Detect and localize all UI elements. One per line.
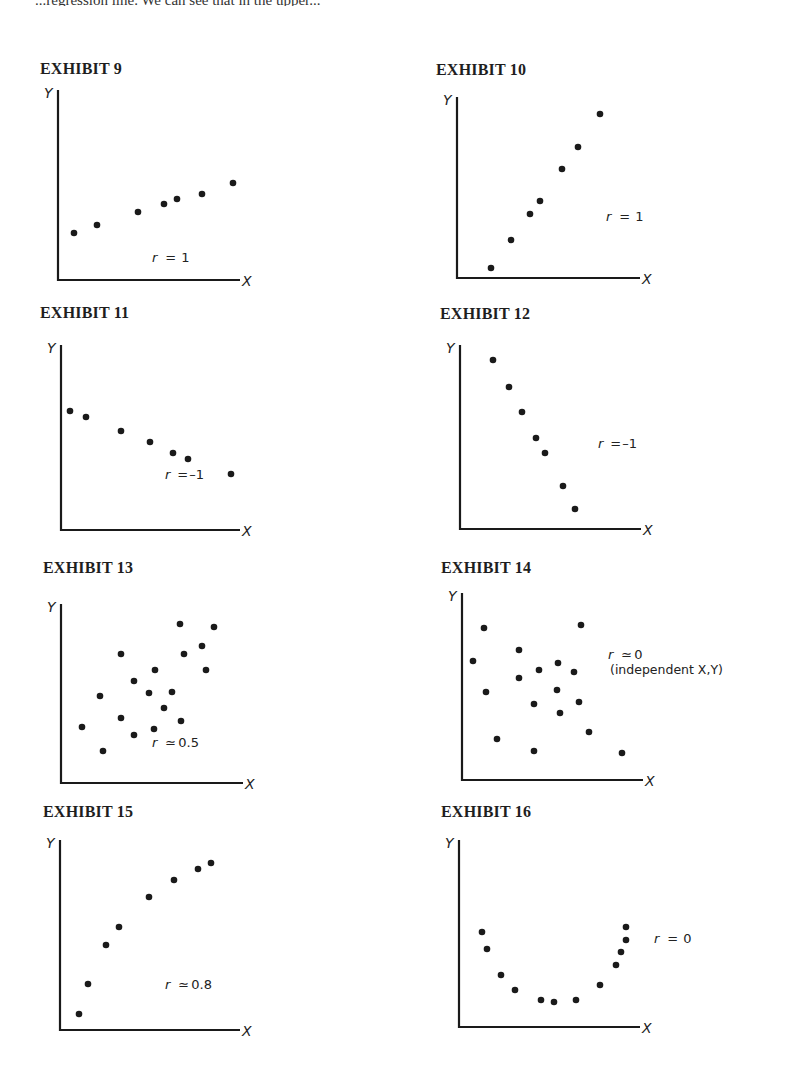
data-point [484, 946, 491, 953]
axis-lines [61, 345, 240, 530]
data-point [97, 693, 104, 700]
axis-lines [58, 90, 240, 280]
data-point [211, 624, 218, 631]
data-point [488, 265, 495, 272]
data-point [83, 414, 90, 421]
data-point [575, 144, 582, 151]
exhibit-16-r-label: r=0 [654, 931, 692, 946]
data-point [185, 456, 192, 463]
data-point [586, 729, 593, 736]
scatter-plots-canvas: YXYXYXYXYXYXYXYX r=1 r=1 r=–1 r=–1 r≃0.5… [0, 0, 799, 1071]
data-point [519, 409, 526, 416]
data-point [555, 660, 562, 667]
data-point [576, 699, 583, 706]
data-point [613, 962, 620, 969]
y-axis-label: Y [446, 340, 456, 356]
data-point [147, 439, 154, 446]
data-point [578, 622, 585, 629]
axis-lines [60, 840, 240, 1030]
data-point [506, 384, 513, 391]
data-point [208, 860, 215, 867]
y-axis-label: Y [445, 835, 455, 851]
data-point [470, 658, 477, 665]
exhibit-10-r-label: r=1 [606, 209, 644, 224]
data-point [481, 625, 488, 632]
y-axis-label: Y [443, 92, 453, 108]
data-point [171, 877, 178, 884]
data-point [199, 643, 206, 650]
data-point [230, 180, 237, 187]
data-point [146, 894, 153, 901]
axis-lines [457, 97, 640, 278]
axis-lines [462, 593, 643, 780]
data-point [118, 428, 125, 435]
data-point [490, 357, 497, 364]
data-point [623, 924, 630, 931]
data-point [483, 689, 490, 696]
data-point [152, 667, 159, 674]
data-point [597, 982, 604, 989]
exhibit-13-r-label: r≃0.5 [152, 735, 199, 750]
data-point [619, 750, 626, 757]
data-point [560, 483, 567, 490]
data-point [85, 981, 92, 988]
exhibit-11-r-label: r=–1 [165, 467, 204, 482]
data-point [559, 166, 566, 173]
data-point [536, 667, 543, 674]
y-axis-label: Y [47, 599, 57, 615]
data-point [94, 222, 101, 229]
data-point [161, 201, 168, 208]
exhibit-15-r-label: r≃0.8 [165, 977, 212, 992]
exhibit-16-plot: YX [445, 835, 652, 1036]
data-point [177, 621, 184, 628]
exhibit-9-r-label: r=1 [152, 250, 190, 265]
data-point [116, 924, 123, 931]
data-point [131, 732, 138, 739]
data-point [527, 211, 534, 218]
y-axis-label: Y [44, 85, 54, 101]
x-axis-label: X [241, 1023, 252, 1039]
data-point [512, 987, 519, 994]
data-point [542, 450, 549, 457]
x-axis-label: X [641, 271, 652, 287]
data-point [174, 196, 181, 203]
data-point [203, 667, 210, 674]
data-point [516, 675, 523, 682]
data-point [508, 237, 515, 244]
data-point [571, 669, 578, 676]
data-point [554, 687, 561, 694]
x-axis-label: X [641, 1020, 652, 1036]
axes-layer: YXYXYXYXYXYXYXYX [44, 85, 655, 1039]
data-point [531, 701, 538, 708]
data-point [498, 972, 505, 979]
data-point [533, 435, 540, 442]
data-point [551, 999, 558, 1006]
data-point [146, 690, 153, 697]
data-point [151, 726, 158, 733]
points-layer [67, 111, 630, 1018]
exhibit-14-sub-label: (independent X,Y) [610, 662, 723, 677]
exhibit-15-plot: YX [46, 835, 252, 1039]
data-point [181, 651, 188, 658]
y-axis-label: Y [448, 588, 458, 604]
data-point [195, 866, 202, 873]
data-point [228, 471, 235, 478]
x-axis-label: X [244, 776, 255, 792]
data-point [516, 647, 523, 654]
exhibit-9-plot: YX [44, 85, 252, 289]
data-point [538, 997, 545, 1004]
exhibit-10-plot: YX [443, 92, 652, 287]
data-point [76, 1011, 83, 1018]
exhibit-14-r-label: r≃0 [608, 647, 643, 662]
axis-lines [459, 840, 640, 1027]
x-axis-label: X [644, 773, 655, 789]
data-point [199, 191, 206, 198]
data-point [169, 689, 176, 696]
data-point [100, 748, 107, 755]
data-point [573, 997, 580, 1004]
data-point [537, 198, 544, 205]
data-point [572, 506, 579, 513]
y-axis-label: Y [46, 835, 56, 851]
x-axis-label: X [241, 523, 252, 539]
data-point [494, 736, 501, 743]
